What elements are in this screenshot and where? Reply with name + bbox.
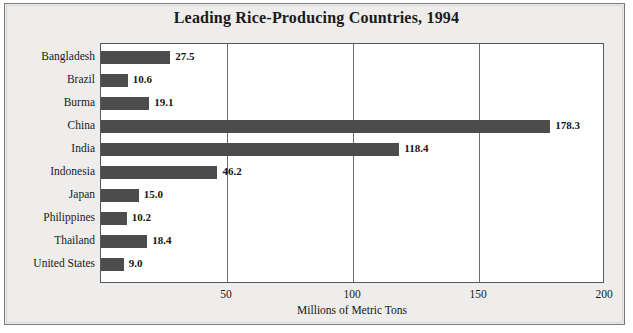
bar <box>101 235 147 248</box>
x-tick-label-100: 100 <box>332 287 372 301</box>
bar-value-label: 118.4 <box>404 141 428 156</box>
category-label: Thailand <box>0 233 95 248</box>
bar-row: 19.1 <box>101 92 605 115</box>
x-axis-title: Millions of Metric Tons <box>100 303 604 318</box>
category-label: India <box>0 141 95 156</box>
bar-row: 27.5 <box>101 46 605 69</box>
bar-row: 118.4 <box>101 138 605 161</box>
bar-row: 178.3 <box>101 115 605 138</box>
plot-area: 27.510.619.1178.3118.446.215.010.218.49.… <box>100 43 604 283</box>
bar <box>101 97 149 110</box>
chart-screenshot: Leading Rice-Producing Countries, 1994 2… <box>0 0 633 333</box>
bar-value-label: 46.2 <box>222 164 241 179</box>
category-label: Japan <box>0 187 95 202</box>
bar-row: 9.0 <box>101 253 605 276</box>
bar <box>101 166 217 179</box>
bar-value-label: 18.4 <box>152 233 171 248</box>
bar-value-label: 19.1 <box>154 95 173 110</box>
bar-value-label: 178.3 <box>555 118 580 133</box>
category-label: United States <box>0 256 95 271</box>
bar-row: 10.6 <box>101 69 605 92</box>
x-tick-label-50: 50 <box>206 287 246 301</box>
bar <box>101 212 127 225</box>
category-label: Indonesia <box>0 164 95 179</box>
category-label: Philippines <box>0 210 95 225</box>
bar-row: 46.2 <box>101 161 605 184</box>
category-label: Brazil <box>0 72 95 87</box>
bar-value-label: 27.5 <box>175 49 194 64</box>
bars-layer: 27.510.619.1178.3118.446.215.010.218.49.… <box>101 44 603 282</box>
category-label: China <box>0 118 95 133</box>
category-label: Burma <box>0 95 95 110</box>
page-title: Leading Rice-Producing Countries, 1994 <box>0 9 633 27</box>
bar-value-label: 15.0 <box>144 187 163 202</box>
bar-row: 15.0 <box>101 184 605 207</box>
bar <box>101 143 399 156</box>
bar-value-label: 10.2 <box>132 210 151 225</box>
bar-row: 10.2 <box>101 207 605 230</box>
x-tick-label-200: 200 <box>584 287 624 301</box>
bar <box>101 51 170 64</box>
bar-value-label: 9.0 <box>129 256 143 271</box>
bar-row: 18.4 <box>101 230 605 253</box>
bar-value-label: 10.6 <box>133 72 152 87</box>
x-tick-label-150: 150 <box>458 287 498 301</box>
bar <box>101 120 550 133</box>
bar <box>101 189 139 202</box>
bar <box>101 258 124 271</box>
category-label: Bangladesh <box>0 49 95 64</box>
bar <box>101 74 128 87</box>
